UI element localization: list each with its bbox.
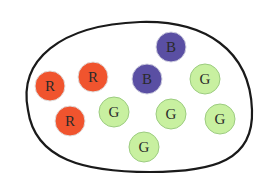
ball-label: G: [166, 106, 177, 122]
ball-green: G: [190, 64, 220, 94]
diagram-canvas: RRRGBBGGGG: [0, 0, 267, 188]
ball-red: R: [78, 62, 108, 92]
ball-label: G: [200, 71, 211, 87]
ball-green: G: [99, 97, 129, 127]
ball-green: G: [156, 99, 186, 129]
ball-green: G: [205, 104, 235, 134]
ball-blue: B: [156, 32, 186, 62]
balls-group: RRRGBBGGGG: [35, 32, 235, 162]
ball-blue: B: [132, 64, 162, 94]
ball-label: R: [88, 69, 98, 85]
ball-red: R: [35, 71, 65, 101]
ball-green: G: [129, 132, 159, 162]
ball-label: B: [166, 39, 176, 55]
ball-label: G: [139, 139, 150, 155]
ball-label: G: [109, 104, 120, 120]
ball-red: R: [55, 106, 85, 136]
ball-label: G: [215, 111, 226, 127]
ball-label: B: [142, 71, 152, 87]
ball-label: R: [45, 78, 55, 94]
ball-label: R: [65, 113, 75, 129]
